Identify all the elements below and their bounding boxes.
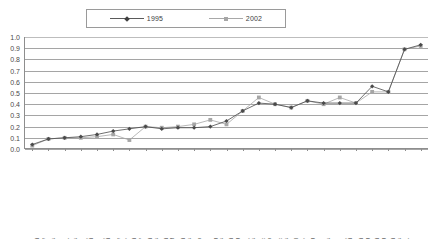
data-point-marker: [257, 101, 261, 105]
series-line-1995: [32, 45, 420, 145]
chart-legend: 1995 2002: [86, 9, 286, 28]
x-tick-mark: [129, 148, 130, 151]
x-tick-mark: [291, 148, 292, 151]
x-category-label: Financial andmonetary: [132, 238, 143, 239]
x-tick-mark: [243, 148, 244, 151]
x-tick-mark: [194, 148, 195, 151]
plot-area: 1.00.90.80.70.60.50.40.30.20.10.0: [0, 33, 431, 153]
x-tick-mark: [97, 148, 98, 151]
legend-entry-1995[interactable]: 1995: [87, 10, 186, 27]
y-tick-label: 0.0: [0, 146, 22, 153]
data-point-marker: [257, 96, 261, 100]
x-category-label: Food andbeverages: [181, 238, 192, 239]
x-tick-mark: [324, 148, 325, 151]
gridlines: [25, 37, 428, 149]
x-tick-mark: [259, 148, 260, 151]
y-tick-label: 0.3: [0, 112, 22, 119]
x-category-label: Metallic products: [326, 238, 332, 239]
x-tick-mark: [210, 148, 211, 151]
data-point-marker: [127, 127, 131, 131]
x-category-label: Leather: [407, 238, 413, 239]
x-category-label: Health and othersocial services: [67, 238, 78, 239]
chart-root: 1995 2002 1.00.90.80.70.60.50.40.30.20.1…: [0, 0, 431, 239]
x-tick-mark: [307, 148, 308, 151]
x-category-label: Education: [197, 238, 203, 239]
x-category-label: Fishing andrelated services: [391, 238, 402, 239]
series-lines: [25, 37, 428, 149]
diamond-marker-icon: [124, 16, 130, 22]
x-category-label: Paper andpublishing: [229, 238, 240, 239]
square-marker-icon: [224, 17, 228, 21]
x-category-label: Hotels andrestaurants: [148, 238, 159, 239]
x-category-label: Mining: [310, 238, 316, 239]
legend-line-2002: [209, 18, 243, 19]
x-category-label: Mechanicalinstruments,: [294, 238, 305, 239]
x-category-label: Wood products,rubber and: [342, 238, 353, 239]
x-category-label: Production anddistribution of: [164, 238, 175, 239]
x-tick-mark: [113, 148, 114, 151]
x-tick-mark: [356, 148, 357, 151]
data-point-marker: [370, 90, 374, 94]
data-point-marker: [208, 125, 212, 129]
x-tick-mark: [65, 148, 66, 151]
x-tick-mark: [372, 148, 373, 151]
legend-line-1995: [110, 18, 144, 19]
legend-entry-2002[interactable]: 2002: [186, 10, 285, 27]
y-tick-label: 0.6: [0, 78, 22, 85]
y-tick-label: 0.1: [0, 134, 22, 141]
x-category-label: Agriculture andHunting: [359, 238, 370, 239]
data-point-marker: [338, 96, 342, 100]
y-tick-label: 0.4: [0, 101, 22, 108]
data-point-marker: [208, 118, 212, 122]
x-tick-mark: [162, 148, 163, 151]
x-category-label: Coke, Oil refining,chemical plants: [245, 238, 256, 239]
y-tick-label: 0.7: [0, 67, 22, 74]
x-axis-category-labels: Retail andwholesale tradeConstructionsHe…: [25, 152, 428, 239]
x-category-label: Other public,social and: [83, 238, 94, 239]
x-tick-mark: [48, 148, 49, 151]
x-tick-mark: [340, 148, 341, 151]
x-category-label: Constructions: [51, 238, 57, 239]
y-tick-label: 0.9: [0, 45, 22, 52]
data-point-marker: [338, 101, 342, 105]
y-tick-label: 0.5: [0, 90, 22, 97]
x-tick-mark: [81, 148, 82, 151]
x-tick-mark: [146, 148, 147, 151]
data-point-marker: [127, 138, 131, 142]
x-tick-mark: [275, 148, 276, 151]
legend-label-2002: 2002: [246, 15, 262, 22]
y-tick-label: 1.0: [0, 34, 22, 41]
y-tick-label: 0.2: [0, 123, 22, 130]
legend-label-1995: 1995: [147, 15, 163, 22]
x-category-label: House-keepingservices: [213, 238, 224, 239]
x-category-label: Transports,stocking and: [100, 238, 111, 239]
x-tick-mark: [388, 148, 389, 151]
x-category-label: Non metallicmineral products: [278, 238, 289, 239]
x-tick-mark: [421, 148, 422, 151]
x-tick-mark: [178, 148, 179, 151]
x-tick-mark: [405, 148, 406, 151]
x-category-label: PublicAdministration: [261, 238, 272, 239]
x-tick-mark: [227, 148, 228, 151]
x-category-label: Retail andwholesale trade: [35, 238, 46, 239]
x-category-label: Real estateactivities, renting,: [116, 238, 127, 239]
y-tick-label: 0.8: [0, 56, 22, 63]
x-tick-mark: [32, 148, 33, 151]
x-category-label: Textiles andClothing: [375, 238, 386, 239]
y-axis-tick-labels: 1.00.90.80.70.60.50.40.30.20.10.0: [0, 33, 22, 153]
